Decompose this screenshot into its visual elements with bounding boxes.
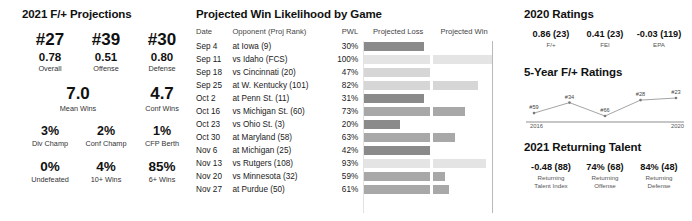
cell-date: Nov 13 (196, 157, 232, 170)
bar-group (364, 40, 494, 53)
cell-pwl: 82% (333, 79, 364, 92)
bar-group (364, 131, 494, 144)
ratings-panel: 2020 Ratings 0.86 (23) F/+ 0.41 (23) FEI… (524, 8, 684, 190)
rank-overall-rating: 0.78 (22, 50, 78, 64)
returning-offense-label1: Returning (578, 174, 632, 182)
five-year-sparkline: #59#34#66#28#23 2016 2020 (524, 86, 686, 132)
mean-wins-label: Mean Wins (36, 104, 120, 114)
wins-row: 7.0 Mean Wins 4.7 Conf Wins (22, 83, 218, 114)
header-opponent: Opponent (Proj Rank) (232, 27, 332, 40)
bar-projected-loss (364, 107, 430, 116)
cell-pwl: 20% (333, 118, 364, 131)
undefeated-value: 0% (22, 158, 78, 175)
bar-projected-loss (364, 42, 424, 51)
bar-projected-loss (364, 185, 430, 194)
cell-pwl: 100% (333, 53, 364, 66)
table-row[interactable]: Oct 30at Maryland (58)63% (196, 131, 496, 144)
conf-wins-value: 4.7 (120, 83, 204, 104)
returning-talent-row: -0.48 (88) Returning Talent Index 74% (6… (524, 161, 686, 190)
rating-epa: -0.03 (119) EPA (632, 28, 686, 49)
returning-defense: 84% (48) Returning Defense (632, 161, 686, 190)
undefeated-label: Undefeated (22, 175, 78, 185)
bar-group (364, 183, 494, 196)
undefeated: 0% Undefeated (22, 158, 78, 185)
win-totals-row: 0% Undefeated 4% 10+ Wins 85% 6+ Wins (22, 158, 190, 185)
table-row[interactable]: Sep 18vs Cincinnati (20)47% (196, 66, 496, 79)
cell-bar (364, 131, 496, 144)
bar-projected-loss (364, 133, 430, 142)
conf-wins: 4.7 Conf Wins (120, 83, 204, 114)
sparkline-point-label: #28 (636, 91, 645, 97)
header-projected-loss: Projected Loss (364, 27, 432, 40)
header-projected-win: Projected Win (432, 27, 496, 40)
cell-date: Oct 2 (196, 92, 232, 105)
table-row[interactable]: Nov 13vs Rutgers (108)93% (196, 157, 496, 170)
table-row[interactable]: Oct 23vs Ohio St. (3)20% (196, 118, 496, 131)
projections-title: 2021 F/+ Projections (22, 8, 190, 20)
rank-defense-value: #30 (134, 30, 190, 50)
returning-talent-index-label2: Talent Index (524, 182, 578, 190)
conf-champ-value: 2% (78, 123, 134, 139)
sparkline-point-label: #66 (600, 107, 609, 113)
cell-date: Sep 4 (196, 40, 232, 53)
cell-opponent: vs Idaho (FCS) (232, 53, 332, 66)
championship-odds-row: 3% Div Champ 2% Conf Champ 1% CFP Berth (22, 123, 190, 149)
table-row[interactable]: Sep 25at W. Kentucky (101)82% (196, 79, 496, 92)
bar-projected-win (433, 185, 449, 194)
cell-bar (364, 170, 496, 183)
cell-bar (364, 79, 496, 92)
schedule-table: Date Opponent (Proj Rank) PWL Projected … (196, 27, 496, 196)
sparkline-point-label: #23 (671, 89, 680, 95)
sparkline-point (639, 99, 642, 102)
bar-group (364, 118, 494, 131)
cell-pwl: 47% (333, 66, 364, 79)
cfp-berth-label: CFP Berth (134, 139, 190, 149)
bar-group (364, 157, 494, 170)
cell-opponent: at Michigan (25) (232, 144, 332, 157)
schedule-title: Projected Win Likelihood by Game (196, 8, 496, 20)
table-row[interactable]: Nov 20vs Minnesota (32)59% (196, 170, 496, 183)
cell-opponent: vs Michigan St. (60) (232, 105, 332, 118)
cell-opponent: at Iowa (9) (232, 40, 332, 53)
bar-projected-win (433, 107, 465, 116)
cell-bar (364, 53, 496, 66)
sparkline-title: 5-Year F/+ Ratings (524, 66, 684, 78)
bar-projected-win (433, 55, 492, 64)
rating-fei: 0.41 (23) FEI (578, 28, 632, 49)
ratings-title: 2020 Ratings (524, 8, 684, 20)
returning-offense-value: 74% (68) (578, 161, 632, 174)
cell-opponent: vs Ohio St. (3) (232, 118, 332, 131)
table-row[interactable]: Oct 2at Penn St. (11)31% (196, 92, 496, 105)
bar-group (364, 92, 494, 105)
rating-epa-label: EPA (632, 41, 686, 49)
cell-pwl: 30% (333, 40, 364, 53)
cfp-berth-value: 1% (134, 123, 190, 139)
returning-talent-index-label1: Returning (524, 174, 578, 182)
table-row[interactable]: Sep 4at Iowa (9)30% (196, 40, 496, 53)
sparkline-year-start: 2016 (530, 123, 543, 129)
rank-overall-label: Overall (22, 64, 78, 74)
cell-pwl: 61% (333, 183, 364, 196)
table-row[interactable]: Nov 27at Purdue (50)61% (196, 183, 496, 196)
chart-right-axis-line (492, 41, 493, 213)
cell-date: Oct 16 (196, 105, 232, 118)
bar-projected-loss (364, 172, 430, 181)
bar-projected-win (433, 81, 478, 90)
cell-date: Nov 6 (196, 144, 232, 157)
conf-champ-label: Conf Champ (78, 139, 134, 149)
rank-defense: #30 0.80 Defense (134, 30, 190, 74)
chart-left-gridline (363, 41, 364, 213)
rank-offense-value: #39 (78, 30, 134, 50)
table-row[interactable]: Sep 11vs Idaho (FCS)100% (196, 53, 496, 66)
rating-fplus: 0.86 (23) F/+ (524, 28, 578, 49)
sparkline-point (568, 101, 571, 104)
rank-defense-rating: 0.80 (134, 50, 190, 64)
cell-bar (364, 66, 496, 79)
table-row[interactable]: Nov 6at Michigan (25)42% (196, 144, 496, 157)
returning-offense: 74% (68) Returning Offense (578, 161, 632, 190)
table-row[interactable]: Oct 16vs Michigan St. (60)73% (196, 105, 496, 118)
div-champ-value: 3% (22, 123, 78, 139)
cell-pwl: 73% (333, 105, 364, 118)
mean-wins: 7.0 Mean Wins (36, 83, 120, 114)
returning-defense-label2: Defense (632, 182, 686, 190)
